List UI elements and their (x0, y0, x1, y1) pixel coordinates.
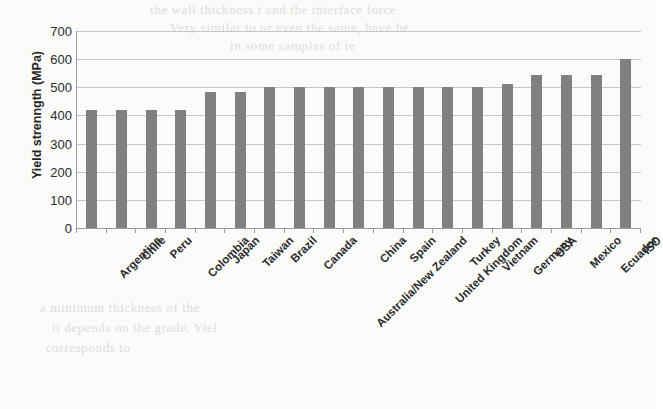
x-tick-mark (432, 228, 433, 233)
y-tick-label: 300 (38, 136, 72, 151)
x-axis-ticks (76, 228, 640, 233)
bar (264, 87, 275, 228)
x-tick-mark (373, 228, 374, 233)
x-tick-mark (106, 228, 107, 233)
bar (620, 59, 631, 228)
bar (383, 87, 394, 228)
x-category-label: Canada (321, 234, 359, 272)
x-tick-mark (462, 228, 463, 233)
y-tick-label: 200 (38, 164, 72, 179)
x-axis-category-labels: ArgentinaChilePeruColombiaJapanTaiwanBra… (76, 234, 640, 354)
bar (561, 75, 572, 228)
x-tick-mark (343, 228, 344, 233)
x-tick-mark (76, 228, 77, 233)
x-tick-mark (521, 228, 522, 233)
x-tick-mark (610, 228, 611, 233)
bar (86, 110, 97, 228)
x-category-label: Mexico (587, 234, 623, 270)
x-category-label: China (377, 234, 408, 265)
bar (413, 87, 424, 228)
bar (324, 87, 335, 228)
x-tick-mark (403, 228, 404, 233)
bar (235, 92, 246, 228)
y-tick-label: 700 (38, 24, 72, 39)
x-tick-mark (492, 228, 493, 233)
bar (205, 92, 216, 228)
bar (175, 110, 186, 228)
bar (353, 87, 364, 228)
x-tick-mark (224, 228, 225, 233)
bar (442, 87, 453, 228)
plot-area (76, 31, 641, 229)
x-tick-mark (640, 228, 641, 233)
bar (531, 75, 542, 228)
x-category-label: Chile (139, 234, 167, 262)
y-tick-label: 600 (38, 52, 72, 67)
x-category-label: Peru (168, 234, 195, 261)
y-tick-label: 400 (38, 108, 72, 123)
y-tick-label: 500 (38, 80, 72, 95)
x-tick-mark (313, 228, 314, 233)
bar-series (77, 31, 641, 228)
bar (116, 110, 127, 228)
x-tick-mark (135, 228, 136, 233)
y-tick-label: 0 (38, 221, 72, 236)
bar (294, 87, 305, 228)
x-category-label: USA (553, 234, 579, 260)
bar (591, 75, 602, 228)
y-axis-tick-labels: 0100200300400500600700 (34, 0, 72, 409)
bar (502, 84, 513, 228)
y-tick-label: 100 (38, 192, 72, 207)
x-tick-mark (581, 228, 582, 233)
bar (146, 110, 157, 228)
x-tick-mark (284, 228, 285, 233)
x-tick-mark (165, 228, 166, 233)
x-tick-mark (254, 228, 255, 233)
x-tick-mark (551, 228, 552, 233)
x-tick-mark (195, 228, 196, 233)
x-category-label: Taiwan (260, 234, 295, 269)
bar (472, 87, 483, 228)
